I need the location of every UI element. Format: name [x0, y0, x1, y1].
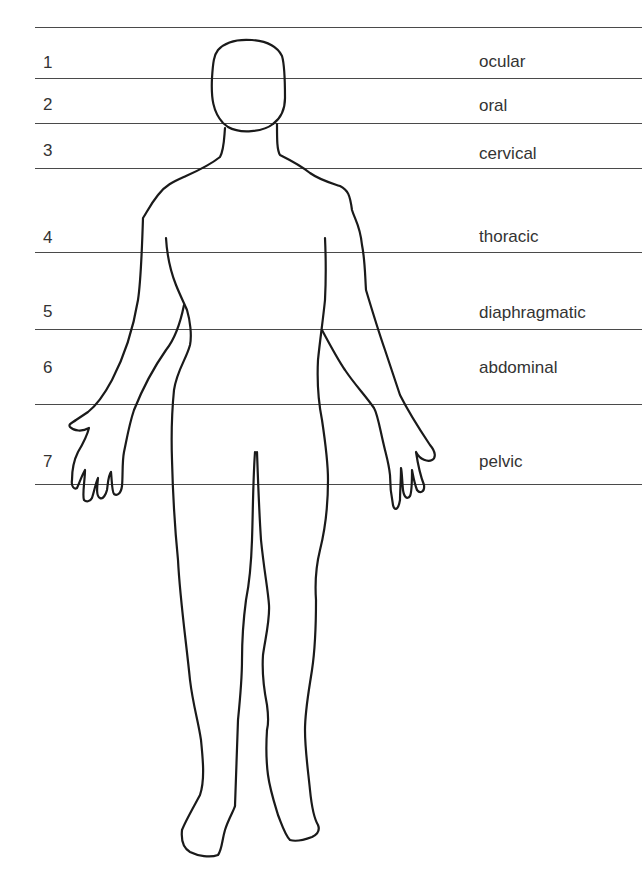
body-levels-diagram: 1 2 3 4 5 6 7 ocular oral cervical thora… [0, 0, 642, 872]
right-body-outline [277, 124, 435, 509]
inner-right-leg [257, 452, 269, 730]
human-body-outline-icon [0, 0, 642, 872]
left-body-outline [69, 128, 225, 501]
inner-legs-outline [235, 452, 255, 806]
head-outline [212, 40, 285, 131]
right-torso-inner [266, 238, 328, 841]
